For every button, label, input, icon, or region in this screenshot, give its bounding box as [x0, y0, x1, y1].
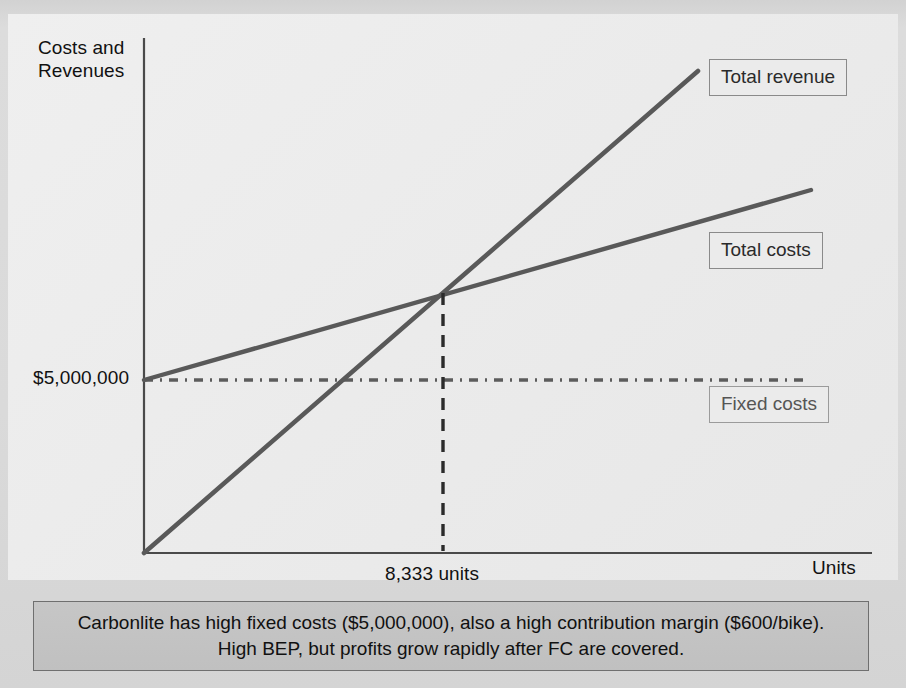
- page-background: Costs and Revenues $5,000,000 8,333 unit…: [0, 0, 906, 688]
- caption-box: Carbonlite has high fixed costs ($5,000,…: [33, 601, 869, 671]
- legend-fixed-costs: Fixed costs: [709, 386, 829, 423]
- series-total-costs-line: [144, 190, 811, 380]
- series-total-revenue-line: [144, 71, 698, 553]
- legend-total-revenue: Total revenue: [709, 59, 847, 96]
- caption-text: Carbonlite has high fixed costs ($5,000,…: [34, 610, 868, 662]
- legend-total-costs: Total costs: [709, 232, 823, 269]
